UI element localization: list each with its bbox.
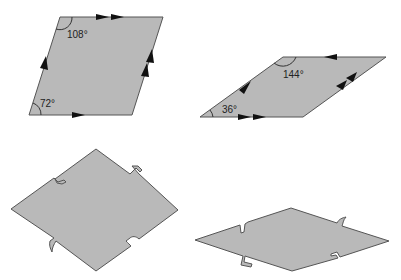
rhombus-thin: 144° 36° bbox=[200, 54, 386, 120]
angle-label-72: 72° bbox=[40, 98, 55, 109]
angle-label-108: 108° bbox=[67, 29, 88, 40]
rhombus-thin-notched-body bbox=[195, 208, 389, 271]
angle-label-36: 36° bbox=[222, 104, 237, 115]
rhombus-diagram: 108° 72° 144° 36° bbox=[0, 0, 401, 280]
rhombus-wide-notched bbox=[11, 149, 178, 271]
angle-label-144: 144° bbox=[283, 69, 304, 80]
rhombus-wide: 108° 72° bbox=[29, 14, 163, 118]
rhombus-thin-notched bbox=[195, 208, 389, 271]
rhombus-wide-notched-body bbox=[11, 149, 178, 271]
